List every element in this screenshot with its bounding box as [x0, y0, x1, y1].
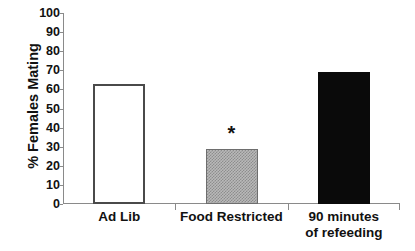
y-axis-tick-mark	[59, 185, 63, 186]
y-axis-tick-label: 20	[26, 160, 60, 172]
y-axis-tick-mark	[59, 70, 63, 71]
y-axis-tick-mark	[59, 13, 63, 14]
x-axis-category-labels: Ad LibFood Restricted90 minutesof refeed…	[63, 209, 400, 251]
y-axis-tick-label: 0	[26, 198, 60, 210]
significance-asterisk: *	[212, 123, 252, 143]
y-axis-tick-label: 50	[26, 103, 60, 115]
y-axis-tick-label: 80	[26, 45, 60, 57]
y-axis-tick-label: 40	[26, 122, 60, 134]
y-axis-tick-mark	[59, 166, 63, 167]
y-axis-tick-mark	[59, 204, 63, 205]
y-axis-tick-label: 10	[26, 179, 60, 191]
y-axis-tick-label: 90	[26, 26, 60, 38]
x-axis-category-label: Food Restricted	[175, 209, 287, 225]
plot-area: *	[63, 13, 400, 204]
bar	[318, 72, 370, 204]
y-axis-tick-mark	[59, 128, 63, 129]
x-axis-category-label-line: of refeeding	[288, 225, 400, 241]
y-axis-line	[63, 13, 64, 204]
x-axis-category-label: Ad Lib	[63, 209, 175, 225]
y-axis-tick-label: 30	[26, 141, 60, 153]
y-axis-tick-mark	[59, 147, 63, 148]
x-axis-category-label-line: Ad Lib	[63, 209, 175, 225]
y-axis-tick-mark	[59, 32, 63, 33]
bar-chart: % Females Mating 0102030405060708090100 …	[0, 0, 415, 251]
y-axis-tick-labels: 0102030405060708090100	[24, 0, 60, 251]
y-axis-tick-label: 100	[26, 7, 60, 19]
y-axis-tick-label: 60	[26, 83, 60, 95]
x-axis-category-label-line: Food Restricted	[175, 209, 287, 225]
y-axis-tick-mark	[59, 109, 63, 110]
y-axis-tick-mark	[59, 51, 63, 52]
x-axis-category-label-line: 90 minutes	[288, 209, 400, 225]
y-axis-tick-label: 70	[26, 64, 60, 76]
y-axis-tick-mark	[59, 89, 63, 90]
x-axis-category-label: 90 minutesof refeeding	[288, 209, 400, 241]
bar	[93, 84, 145, 204]
bar	[206, 149, 258, 204]
